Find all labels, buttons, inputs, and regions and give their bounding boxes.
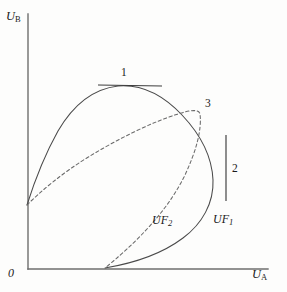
curve-label-uf2-symbol: UF <box>152 213 168 227</box>
marker-label-3: 3 <box>205 98 211 110</box>
curve-label-uf2: UF2 <box>152 214 172 227</box>
marker-label-2: 2 <box>232 163 238 175</box>
plot-canvas <box>0 0 287 292</box>
x-axis-label-symbol: U <box>252 267 261 281</box>
curve-label-uf1-symbol: UF <box>213 212 229 226</box>
tangent-marker-1 <box>98 85 162 86</box>
curve-label-uf2-subscript: 2 <box>168 218 172 228</box>
x-axis-label: UA <box>252 268 267 281</box>
y-axis-label: UB <box>6 10 21 23</box>
curve-label-uf1: UF1 <box>213 213 233 226</box>
curve-label-uf1-subscript: 1 <box>229 217 233 227</box>
origin-label: 0 <box>8 267 14 279</box>
x-axis-label-subscript: A <box>261 272 267 282</box>
curve-uf1-solid <box>27 86 213 268</box>
y-axis-label-subscript: B <box>15 14 21 24</box>
figure-container: UB UA 0 1 2 3 UF2 UF1 <box>0 0 287 292</box>
marker-label-1: 1 <box>121 67 127 79</box>
y-axis-label-symbol: U <box>6 9 15 23</box>
